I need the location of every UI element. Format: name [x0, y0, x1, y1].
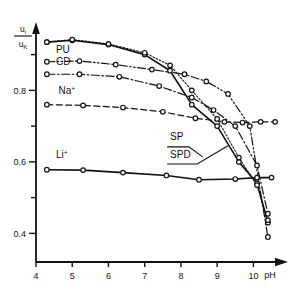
- data-point-marker: [190, 88, 195, 93]
- series-label-cd: CD: [56, 56, 70, 67]
- x-axis-arrowhead: [275, 258, 288, 266]
- data-point-marker: [45, 40, 50, 45]
- data-point-marker: [81, 168, 86, 173]
- data-point-marker: [233, 124, 238, 129]
- series-label-li: Li+: [56, 149, 68, 160]
- data-point-marker: [45, 102, 50, 107]
- data-point-marker: [193, 116, 198, 121]
- data-point-marker: [81, 103, 86, 108]
- data-point-marker: [168, 68, 173, 73]
- data-point-marker: [117, 74, 122, 79]
- x-axis-tick-label: 6: [106, 271, 111, 281]
- chart-figure: 456789100.40.60.8 PUCDNa+Li+SPSPD ui uK …: [0, 0, 293, 293]
- data-point-marker: [121, 170, 126, 175]
- tick-label-group: 456789100.40.60.8: [13, 86, 258, 281]
- y-axis-arrowhead: [32, 22, 40, 34]
- y-axis-tick-label: 0.4: [13, 229, 26, 239]
- data-point-marker: [255, 163, 260, 168]
- data-point-marker: [113, 62, 118, 67]
- data-point-marker: [266, 235, 271, 240]
- data-point-marker: [190, 102, 195, 107]
- data-point-marker: [45, 167, 50, 172]
- data-point-marker: [106, 42, 111, 47]
- data-point-marker: [142, 51, 147, 56]
- x-axis-tick-label: 8: [178, 271, 183, 281]
- series-label-pu: PU: [56, 44, 70, 55]
- data-point-marker: [258, 120, 263, 125]
- x-axis-tick-label: 9: [215, 271, 220, 281]
- series-line-cd: [47, 74, 268, 213]
- y-axis-label-numerator: ui: [20, 24, 26, 35]
- data-point-marker: [215, 117, 220, 122]
- x-axis-tick-label: 4: [33, 271, 38, 281]
- data-point-marker: [161, 110, 166, 115]
- data-point-marker: [70, 37, 75, 42]
- data-point-marker: [197, 177, 202, 182]
- data-point-marker: [77, 59, 82, 64]
- axes-group: [32, 22, 288, 266]
- data-point-marker: [266, 218, 271, 223]
- data-point-marker: [157, 84, 162, 89]
- x-axis-tick-label: 5: [70, 271, 75, 281]
- data-point-marker: [255, 175, 260, 180]
- data-point-marker: [247, 124, 252, 129]
- data-point-marker: [45, 72, 50, 77]
- y-axis-label-denominator: uK: [19, 39, 28, 50]
- data-point-marker: [237, 155, 242, 160]
- data-point-marker: [211, 108, 216, 113]
- data-point-marker: [204, 79, 209, 84]
- data-point-marker: [121, 105, 126, 110]
- data-point-marker: [226, 92, 231, 97]
- y-axis-tick-label: 0.6: [13, 157, 26, 167]
- data-point-marker: [269, 175, 274, 180]
- series-label-na: Na+: [58, 85, 75, 96]
- data-point-marker: [255, 183, 260, 188]
- data-point-marker: [150, 67, 155, 72]
- data-point-marker: [45, 59, 50, 64]
- x-axis-tick-label: 10: [248, 271, 258, 281]
- x-axis-tick-label: 7: [142, 271, 147, 281]
- data-point-marker: [168, 63, 173, 68]
- data-point-marker: [190, 95, 195, 100]
- series-line-sp: [47, 40, 268, 222]
- chart-canvas: 456789100.40.60.8 PUCDNa+Li+SPSPD ui uK …: [0, 0, 293, 293]
- series-label-spd: SPD: [170, 149, 191, 160]
- y-axis-tick-label: 0.8: [13, 86, 26, 96]
- x-axis-label: pH: [264, 270, 276, 280]
- y-axis-label: ui uK: [14, 24, 32, 50]
- data-point-marker: [273, 120, 278, 125]
- data-point-marker: [233, 177, 238, 182]
- data-point-marker: [77, 72, 82, 77]
- data-point-marker: [222, 120, 227, 125]
- data-point-marker: [182, 72, 187, 77]
- series-line-spd: [47, 40, 268, 221]
- data-point-marker: [164, 173, 169, 178]
- data-point-marker: [266, 211, 271, 216]
- data-series-group: [47, 40, 275, 237]
- data-point-marker: [215, 124, 220, 129]
- data-point-marker: [240, 120, 245, 125]
- series-label-sp: SP: [170, 131, 184, 142]
